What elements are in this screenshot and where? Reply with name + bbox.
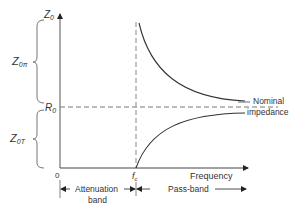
nominal-label-line1: Nominal [253, 96, 284, 106]
z0-pi-curve [139, 23, 245, 101]
origin-label: 0 [55, 171, 60, 180]
cutoff-frequency-label: fc [132, 171, 138, 182]
z0-t-label: Z0T [9, 132, 26, 145]
y-axis-label: Z0 [43, 9, 54, 21]
attenuation-band-label-line2: band [88, 195, 107, 205]
upper-brace [33, 20, 44, 103]
pass-band-label: Pass-band [168, 184, 209, 194]
impedance-frequency-diagram: Z0 R0 Z0π Z0T 0 fc Frequency Nominal imp… [0, 0, 300, 217]
nominal-label-line2: impedance [247, 107, 289, 117]
attenuation-band-label-line1: Attenuation [75, 184, 118, 194]
r0-label: R0 [45, 102, 56, 114]
lower-brace [33, 110, 44, 168]
diagram-svg: Z0 R0 Z0π Z0T 0 fc Frequency Nominal imp… [0, 0, 300, 217]
z0-t-curve [136, 113, 245, 168]
frequency-axis-label: Frequency [190, 171, 233, 181]
z0-pi-label: Z0π [11, 55, 28, 68]
